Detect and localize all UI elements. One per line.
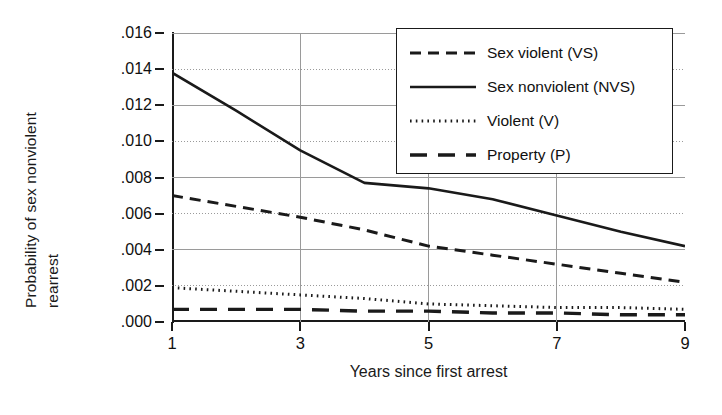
legend-label: Violent (V) [487, 112, 559, 130]
y-tick-mark [155, 285, 164, 287]
y-tick-label: .000 [121, 313, 152, 331]
y-tick-mark [155, 32, 164, 34]
y-tick-label: .008 [121, 169, 152, 187]
x-tick-mark [684, 322, 686, 331]
x-tick-label: 7 [552, 334, 561, 353]
y-tick-label: .010 [121, 132, 152, 150]
y-tick-label: .004 [121, 241, 152, 259]
y-tick-mark [155, 140, 164, 142]
legend-swatch-longdash [410, 148, 476, 162]
y-tick-mark [155, 249, 164, 251]
y-tick-label: .006 [121, 205, 152, 223]
legend-label: Property (P) [487, 146, 571, 164]
legend-swatch-dotted [410, 114, 476, 128]
x-tick-mark [556, 322, 558, 331]
y-axis-title: Probability of sex nonviolent rearrest [0, 0, 58, 330]
legend-item: Violent (V) [397, 103, 672, 139]
y-tick-label: .016 [121, 24, 152, 42]
x-tick-mark [171, 322, 173, 331]
y-tick-label: .014 [121, 60, 152, 78]
x-tick-label: 3 [296, 334, 305, 353]
legend-swatch-solid [410, 80, 476, 94]
legend-label: Sex violent (VS) [487, 44, 598, 62]
y-tick-mark [155, 321, 164, 323]
legend-box: Sex violent (VS)Sex nonviolent (NVS)Viol… [396, 28, 673, 174]
y-tick-label: .002 [121, 277, 152, 295]
x-axis-ticks: 13579 [172, 322, 685, 362]
legend-swatch-dashed [410, 46, 476, 60]
legend-label: Sex nonviolent (NVS) [487, 78, 635, 96]
y-axis-ticks: .000.002.004.006.008.010.012.014.016 [58, 0, 164, 415]
x-tick-mark [428, 322, 430, 331]
legend-item: Sex nonviolent (NVS) [397, 69, 672, 105]
y-axis-title-line-1: Probability of sex nonviolent [22, 112, 40, 308]
x-tick-mark [299, 322, 301, 331]
x-tick-label: 9 [680, 334, 689, 353]
y-tick-mark [155, 213, 164, 215]
y-tick-label: .012 [121, 96, 152, 114]
y-tick-mark [155, 104, 164, 106]
x-axis-title: Years since first arrest [172, 363, 685, 381]
y-tick-mark [155, 68, 164, 70]
y-tick-mark [155, 177, 164, 179]
legend-item: Property (P) [397, 137, 672, 173]
chart-figure: Probability of sex nonviolent rearrest .… [0, 0, 722, 415]
legend-item: Sex violent (VS) [397, 35, 672, 71]
x-tick-label: 1 [167, 334, 176, 353]
x-tick-label: 5 [424, 334, 433, 353]
